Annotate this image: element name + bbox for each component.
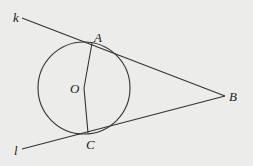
tangent-line-k	[22, 18, 225, 96]
label-c: C	[86, 137, 95, 152]
tangent-line-l	[22, 96, 225, 149]
label-k: k	[13, 10, 19, 25]
label-l: l	[14, 143, 18, 158]
radius-oa	[84, 43, 92, 88]
radius-oc	[84, 88, 88, 133]
geometry-diagram: k l A B C O	[0, 0, 253, 166]
label-o: O	[70, 81, 80, 96]
label-b: B	[229, 89, 237, 104]
label-a: A	[93, 30, 102, 45]
